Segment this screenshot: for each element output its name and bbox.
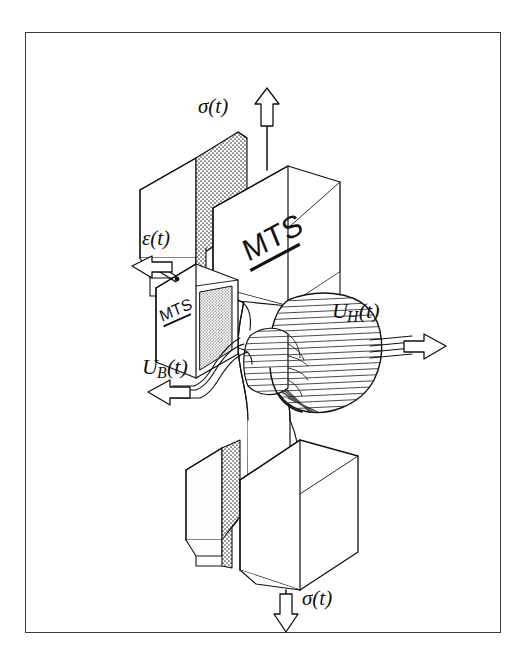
uh-subscript: H [347,308,358,325]
strain-label: ε(t) [142,228,170,249]
ub-argument: (t) [167,354,188,379]
uh-label: UH(t) [332,300,379,325]
ub-subscript: B [157,364,167,381]
lower-wedge-grip [186,440,358,600]
testing-machine-illustration: MTS [0,0,522,658]
ub-symbol: U [142,354,158,379]
stress-arrow-up [255,88,279,126]
uh-argument: (t) [359,298,380,323]
uh-symbol: U [332,298,348,323]
ub-arrow-left [148,380,190,405]
stress-label-top: σ(t) [198,96,228,117]
uh-arrow-right [404,334,446,359]
stress-label-bottom: σ(t) [302,588,332,609]
ub-label: UB(t) [142,356,188,381]
figure-page: MTS [0,0,522,658]
stress-arrow-down [274,594,298,632]
